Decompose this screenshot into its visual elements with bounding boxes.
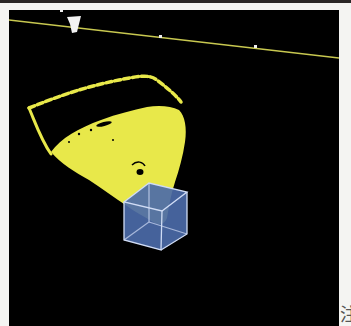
point-cloud-gap [68, 141, 70, 143]
point-cloud-left-edge [29, 108, 51, 154]
line-marker [60, 10, 63, 12]
point-cloud-gap [129, 93, 169, 102]
line-marker [254, 45, 257, 48]
point-cloud-gap [137, 169, 144, 175]
ground-line [9, 20, 339, 58]
scene-canvas [9, 10, 339, 326]
point-cloud-gap [78, 133, 80, 135]
caption-fragment: 注 [340, 304, 351, 326]
sensor-marker-icon [67, 16, 81, 33]
point-cloud-gap [90, 129, 92, 131]
top-border [0, 0, 351, 3]
point-cloud-arc [29, 76, 181, 108]
point-cloud-viewport[interactable] [9, 10, 339, 326]
line-marker [159, 35, 162, 38]
point-cloud-gap [112, 139, 114, 141]
